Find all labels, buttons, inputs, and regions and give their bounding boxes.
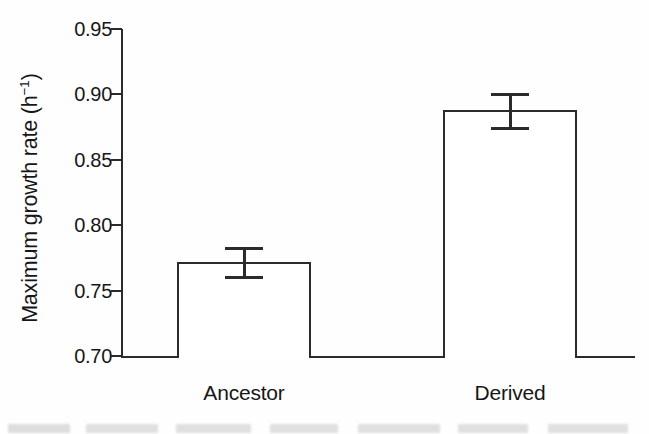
error-bar-upper-cap-derived [491,93,529,96]
x-tick-label-ancestor: Ancestor [164,381,324,405]
y-axis-line [121,29,123,357]
bar-derived[interactable] [443,110,577,358]
error-bar-upper-cap-ancestor [225,247,263,250]
y-axis-tick-2 [111,159,122,161]
y-axis-tick-0 [111,28,122,30]
plot-area [0,0,649,434]
error-bar-lower-cap-derived [491,127,529,130]
y-axis-tick-3 [111,224,122,226]
bar-chart-figure: Maximum growth rate (h−1) 0.95 0.90 0.85… [0,0,649,434]
y-axis-tick-5 [111,355,122,357]
error-bar-stem-derived [509,93,512,127]
x-tick-label-derived: Derived [430,381,590,405]
caption-remnant [8,424,628,433]
y-axis-tick-1 [111,93,122,95]
error-bar-stem-ancestor [243,247,246,276]
y-axis-tick-4 [111,290,122,292]
error-bar-lower-cap-ancestor [225,276,263,279]
